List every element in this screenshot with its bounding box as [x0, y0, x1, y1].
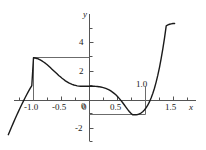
x-tick-label-half: 0.5 — [110, 103, 121, 112]
curve-plot — [0, 0, 206, 150]
y-tick-label-two: 2 — [79, 67, 84, 76]
x-tick-label-neg-half: -0.5 — [52, 103, 66, 112]
y-tick-label-four: 4 — [79, 38, 84, 47]
figure-container: -1.0 -0.5 0 0.5 1.0 1.5 4 2 0 -2 x y — [0, 0, 206, 150]
x-tick-label-neg-one: -1.0 — [24, 103, 38, 112]
x-tick-label-one: 1.0 — [136, 80, 147, 89]
x-tick-label-one-half: 1.5 — [165, 103, 176, 112]
y-tick-label-neg-two: -2 — [75, 124, 83, 133]
y-axis-title: y — [83, 10, 87, 19]
x-axis-title: x — [189, 103, 193, 112]
y-tick-label-zero: 0 — [81, 102, 86, 111]
